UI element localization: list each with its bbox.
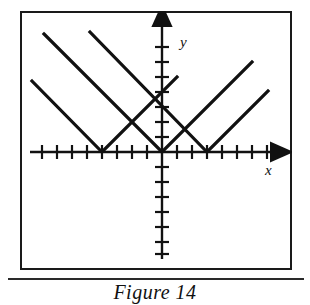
y-axis: [155, 25, 169, 259]
figure-caption: Figure 14: [0, 281, 310, 304]
caption-divider: [8, 278, 304, 280]
y-axis-label: y: [178, 34, 187, 50]
absolute-value-graph-left: [32, 77, 177, 152]
figure-14: y x Figure 14: [0, 0, 310, 305]
cut-off-text-above: [0, 0, 310, 9]
x-axis-label: x: [264, 162, 272, 178]
x-axis: [30, 145, 272, 159]
coordinate-plane: y x: [20, 11, 292, 270]
